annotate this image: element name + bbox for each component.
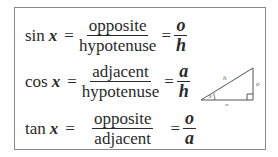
sin-formula: sin x = opposite hypotenuse = o h [25,17,188,54]
equals-sign: = [161,26,171,46]
function-name: cos [25,72,48,92]
numerator: adjacent [90,63,151,82]
function-name: tan [25,119,46,139]
symbol-fraction: o h [174,17,188,54]
angle-label: x [208,93,212,99]
cos-formula: cos x = adjacent hypotenuse = a h [25,63,191,100]
numerator: opposite [87,17,149,36]
adjacent-label: a [225,101,229,106]
variable: x [50,119,59,139]
numerator: a [177,63,190,82]
denominator: hypotenuse [77,36,158,54]
word-fraction: opposite adjacent [92,110,154,147]
tan-formula: tan x = opposite adjacent = o a [25,110,196,147]
numerator: o [183,110,196,129]
denominator: a [183,129,196,147]
equals-sign: = [164,72,174,92]
symbol-fraction: a h [177,63,191,100]
word-fraction: adjacent hypotenuse [80,63,161,100]
equals-sign: = [170,119,180,139]
symbol-fraction: o a [183,110,196,147]
denominator: adjacent [92,129,153,147]
equals-sign: = [65,119,75,139]
right-triangle-diagram: h o a x [195,64,261,106]
equals-sign: = [67,72,77,92]
equals-sign: = [64,26,74,46]
denominator: hypotenuse [80,82,161,100]
variable: x [52,72,61,92]
word-fraction: opposite hypotenuse [77,17,158,54]
numerator: opposite [92,110,154,129]
opposite-label: o [256,80,260,88]
function-name: sin [25,26,45,46]
denominator: h [174,36,188,54]
hypotenuse-label: h [223,74,227,82]
denominator: h [177,82,191,100]
variable: x [49,26,58,46]
numerator: o [174,17,187,36]
